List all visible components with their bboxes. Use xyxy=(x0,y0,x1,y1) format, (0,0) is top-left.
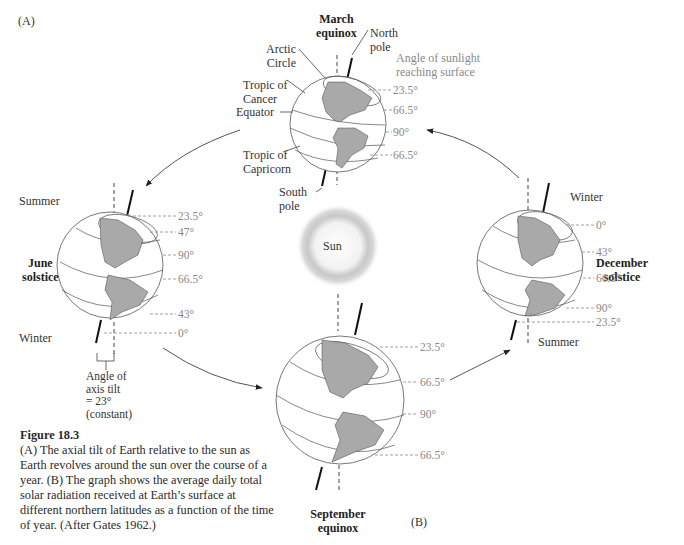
panel-label-b: (B) xyxy=(411,515,427,529)
tilt-line4: (constant) xyxy=(86,408,132,421)
september-title-line1: September xyxy=(310,507,365,521)
arrow-december-to-march xyxy=(427,130,519,178)
sunlight-line1: Angle of sunlight xyxy=(396,51,480,65)
september-equinox-title: September equinox xyxy=(310,507,365,535)
june-summer-label: Summer xyxy=(19,194,60,208)
axis-tilt-label: Angle of axis tilt = 23° (constant) xyxy=(86,370,132,420)
globe-june xyxy=(57,183,176,370)
june-winter-label: Winter xyxy=(19,331,52,345)
arrow-june-to-september xyxy=(163,348,262,388)
march-angle-1: 23.5° xyxy=(393,84,418,96)
tropic-of-cancer-label: Tropic of Cancer xyxy=(243,78,288,106)
march-title-line2: equinox xyxy=(316,26,357,40)
march-angle-3: 90° xyxy=(393,126,409,138)
globe-september xyxy=(276,294,418,492)
december-angle-2: 43° xyxy=(596,246,612,258)
equator-label: Equator xyxy=(236,105,274,119)
capricorn-line1: Tropic of xyxy=(243,148,291,162)
sun-label: Sun xyxy=(323,239,342,253)
arrow-september-to-december xyxy=(450,350,510,380)
september-angle-2: 66.5° xyxy=(420,376,445,388)
march-equinox-title: March equinox xyxy=(316,12,357,40)
june-angle-2: 47° xyxy=(178,226,194,238)
december-angle-3: 66.5° xyxy=(596,272,621,284)
september-angle-1: 23.5° xyxy=(420,341,445,353)
june-solstice-title: June solstice xyxy=(22,256,59,284)
december-winter-label: Winter xyxy=(570,190,603,204)
december-title-line1: December xyxy=(596,256,648,270)
caption-title: Figure 18.3 xyxy=(20,428,275,443)
figure-caption: Figure 18.3 (A) The axial tilt of Earth … xyxy=(20,428,275,533)
arctic-line2: Circle xyxy=(266,56,296,70)
june-angle-3: 90° xyxy=(178,249,194,261)
june-angle-1: 23.5° xyxy=(178,210,203,222)
sunlight-angle-label: Angle of sunlight reaching surface xyxy=(396,51,480,79)
globe-march xyxy=(280,30,392,192)
june-angle-6: 0° xyxy=(178,327,188,339)
december-angle-1: 0° xyxy=(596,219,606,231)
june-angle-4: 66.5° xyxy=(178,273,203,285)
march-title-line1: March xyxy=(316,12,357,26)
arrow-march-to-june xyxy=(146,130,240,186)
north-pole-label: North pole xyxy=(370,26,398,54)
june-angle-5: 43° xyxy=(178,308,194,320)
arctic-line1: Arctic xyxy=(266,42,296,56)
september-angle-4: 66.5° xyxy=(420,449,445,461)
arctic-circle-label: Arctic Circle xyxy=(266,42,296,70)
tilt-line2: axis tilt xyxy=(86,383,132,396)
north-pole-line1: North xyxy=(370,26,398,40)
march-angle-2: 66.5° xyxy=(393,104,418,116)
caption-text: (A) The axial tilt of Earth relative to … xyxy=(20,443,274,532)
september-angle-3: 90° xyxy=(420,408,436,420)
south-pole-label: South pole xyxy=(279,185,307,213)
march-angle-4: 66.5° xyxy=(393,149,418,161)
cancer-line1: Tropic of xyxy=(243,78,288,92)
december-angle-4: 90° xyxy=(596,302,612,314)
panel-label-a: (A) xyxy=(18,14,35,28)
tilt-line3: = 23° xyxy=(86,395,132,408)
south-pole-line1: South xyxy=(279,185,307,199)
december-angle-5: 23.5° xyxy=(596,316,621,328)
december-summer-label: Summer xyxy=(538,335,579,349)
tilt-line1: Angle of xyxy=(86,370,132,383)
june-title-line1: June xyxy=(22,256,59,270)
june-title-line2: solstice xyxy=(22,270,59,284)
capricorn-line2: Capricorn xyxy=(243,162,291,176)
september-title-line2: equinox xyxy=(310,521,365,535)
north-pole-line2: pole xyxy=(370,40,398,54)
tropic-of-capricorn-label: Tropic of Capricorn xyxy=(243,148,291,176)
south-pole-line2: pole xyxy=(279,199,307,213)
cancer-line2: Cancer xyxy=(243,92,288,106)
sunlight-line2: reaching surface xyxy=(396,65,480,79)
